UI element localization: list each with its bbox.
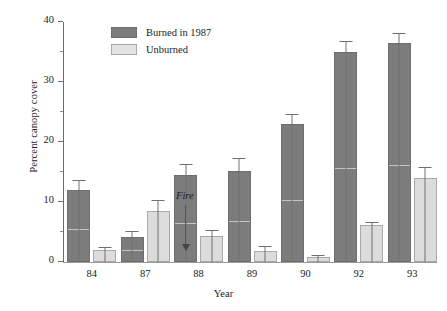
y-axis-minor-tick [60, 51, 63, 52]
error-bar-cap [339, 41, 352, 42]
error-bar-stem [78, 180, 79, 262]
error-bar-cap [312, 255, 325, 256]
error-bar-unburned-89 [254, 246, 277, 262]
error-bar-burned-87 [121, 231, 144, 262]
legend-label: Burned in 1987 [146, 27, 211, 38]
x-axis-tick-label: 87 [140, 268, 151, 279]
error-bar-unburned-90 [307, 255, 330, 262]
error-bar-cap [179, 164, 192, 165]
error-bar-cap [286, 114, 299, 115]
error-bar-burned-84 [67, 180, 90, 262]
error-bar-cap [205, 230, 218, 231]
error-bar-burned-92 [334, 41, 357, 262]
error-bar-unburned-92 [360, 222, 383, 262]
error-bar-stem [104, 247, 105, 262]
x-axis-title: Year [0, 288, 447, 299]
x-axis-tick-label: 92 [354, 268, 365, 279]
chart-legend: Burned in 1987Unburned [111, 24, 211, 58]
y-axis-line [63, 22, 64, 262]
error-bar-stem [239, 158, 240, 262]
error-bar-cap [126, 231, 139, 232]
x-axis-tick-label: 84 [86, 268, 97, 279]
x-axis-line [63, 262, 437, 263]
fire-annotation: Fire [176, 190, 194, 201]
error-bar-stem [132, 231, 133, 262]
error-bar-cap [152, 200, 165, 201]
fire-annotation-arrowhead-icon [182, 244, 190, 251]
fire-annotation-arrow-line [185, 205, 186, 247]
error-bar-cap [72, 180, 85, 181]
y-axis-title: Percent canopy cover [28, 47, 39, 207]
y-axis-tick-label: 10 [44, 194, 55, 205]
error-bar-stem [211, 230, 212, 262]
legend-swatch-burned [111, 27, 137, 38]
error-bar-cap [365, 222, 378, 223]
y-axis-tick-label: 20 [44, 134, 55, 145]
y-axis-minor-tick [60, 231, 63, 232]
error-bar-stem [425, 167, 426, 262]
error-bar-stem [399, 33, 400, 262]
y-axis-tick-label: 0 [49, 254, 54, 265]
error-bar-stem [345, 41, 346, 262]
legend-swatch-unburned [111, 44, 137, 55]
y-axis-minor-tick [60, 111, 63, 112]
y-axis-tick-label: 40 [44, 14, 55, 25]
error-bar-burned-90 [281, 114, 304, 262]
fire-annotation-label: Fire [176, 190, 194, 201]
y-axis-tick: 40 [58, 21, 63, 22]
legend-item-burned: Burned in 1987 [111, 24, 211, 41]
error-bar-unburned-84 [93, 247, 116, 262]
error-bar-cap [233, 158, 246, 159]
canopy-cover-bar-chart: Percent canopy cover Year 010203040 8487… [0, 0, 447, 311]
x-axis-tick-label: 90 [300, 268, 311, 279]
legend-label: Unburned [146, 44, 188, 55]
x-axis-tick-label: 89 [247, 268, 258, 279]
error-bar-unburned-93 [414, 167, 437, 262]
error-bar-unburned-88 [200, 230, 223, 262]
plot-area: 010203040 84878889909293 Fire [63, 22, 437, 262]
error-bar-cap [98, 247, 111, 248]
error-bar-burned-89 [228, 158, 251, 262]
x-axis-tick-label: 93 [407, 268, 418, 279]
y-axis-tick: 0 [58, 261, 63, 262]
error-bar-stem [158, 200, 159, 262]
x-axis-tick-label: 88 [193, 268, 204, 279]
y-axis-minor-tick [60, 171, 63, 172]
y-axis-tick-label: 30 [44, 74, 55, 85]
y-axis-tick: 30 [58, 81, 63, 82]
error-bar-cap [259, 246, 272, 247]
error-bar-cap [419, 167, 432, 168]
error-bar-burned-93 [388, 33, 411, 262]
error-bar-stem [265, 246, 266, 262]
legend-item-unburned: Unburned [111, 41, 211, 58]
error-bar-unburned-87 [147, 200, 170, 262]
error-bar-stem [292, 114, 293, 262]
error-bar-stem [371, 222, 372, 262]
y-axis-tick: 10 [58, 201, 63, 202]
error-bar-cap [393, 33, 406, 34]
y-axis-tick: 20 [58, 141, 63, 142]
